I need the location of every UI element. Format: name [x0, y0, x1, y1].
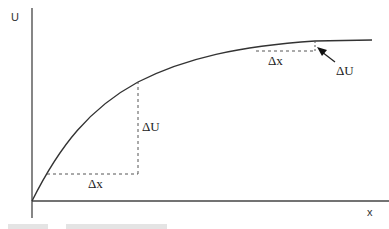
lower-dx-label: Δx: [88, 177, 103, 190]
upper-du-label: ΔU: [336, 64, 354, 77]
y-axis-label: U: [11, 12, 19, 23]
lower-du-label: ΔU: [142, 120, 160, 133]
upper-dx-label: Δx: [268, 54, 283, 67]
caption-fragment: [8, 224, 48, 229]
marginal-utility-diagram: [0, 0, 389, 229]
x-axis-label: x: [367, 207, 373, 218]
caption-fragment: [112, 224, 167, 229]
utility-curve: [32, 40, 372, 201]
